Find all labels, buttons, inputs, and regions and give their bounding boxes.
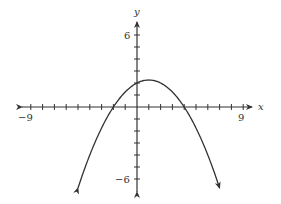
x-min-label: −9 xyxy=(18,112,33,123)
parabola-graph: y x −9 9 6 −6 xyxy=(0,0,281,204)
y-axis-label: y xyxy=(133,6,140,17)
x-axis-label: x xyxy=(258,101,264,112)
x-max-label: 9 xyxy=(238,112,244,123)
y-min-label: −6 xyxy=(115,174,130,185)
parabola-curve xyxy=(78,80,220,188)
y-max-label: 6 xyxy=(124,30,130,41)
